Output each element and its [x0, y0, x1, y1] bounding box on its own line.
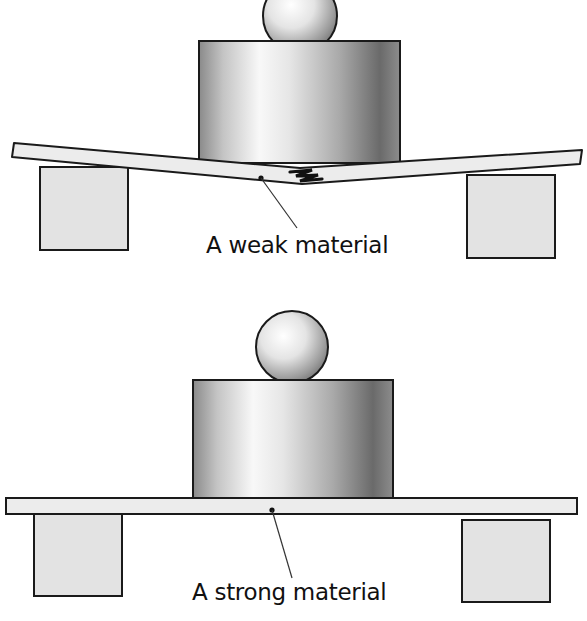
ball-icon	[256, 311, 328, 383]
cylinder-weight	[199, 41, 400, 163]
cylinder-weight	[193, 380, 393, 502]
right-support-block	[467, 175, 555, 258]
left-support-block	[40, 167, 128, 250]
strong-material-label: A strong material	[192, 579, 386, 605]
leader-line	[272, 510, 292, 578]
leader-line	[261, 178, 297, 228]
right-support-block	[462, 520, 550, 602]
panel-weak-material: A weak material	[12, 0, 582, 258]
left-support-block	[34, 514, 122, 596]
panel-strong-material: A strong material	[6, 311, 577, 605]
weak-material-label: A weak material	[206, 232, 388, 258]
material-strength-diagram: A weak material A strong material	[0, 0, 587, 621]
straight-beam	[6, 498, 577, 514]
